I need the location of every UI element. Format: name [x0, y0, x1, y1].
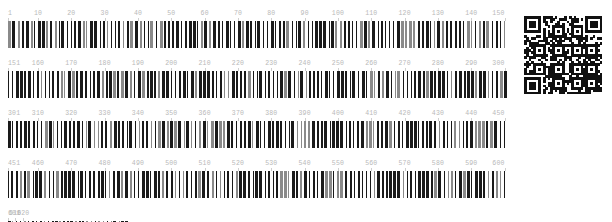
ruler-label: 330 — [99, 110, 111, 118]
barcode-bar — [185, 21, 188, 48]
barcode-strip[interactable] — [8, 21, 508, 48]
barcode-bar — [212, 171, 215, 198]
qr-module — [538, 68, 541, 71]
ruler-label: 130 — [432, 10, 444, 18]
barcode-bar — [20, 71, 23, 98]
ruler-label: 10 — [34, 10, 42, 18]
barcode-bar — [201, 21, 202, 48]
barcode-bar — [156, 21, 157, 48]
barcode-bar — [122, 121, 123, 148]
barcode-bar — [80, 71, 83, 98]
barcode-bar — [94, 21, 97, 48]
barcode-bar — [109, 171, 110, 198]
barcode-bar — [195, 171, 196, 198]
barcode-bar — [48, 221, 49, 222]
barcode-bar — [231, 121, 232, 148]
ruler-label: 20 — [67, 10, 75, 18]
barcode-bar — [463, 21, 464, 48]
barcode-row[interactable]: 601610620 — [8, 210, 508, 222]
barcode-bar — [366, 71, 367, 98]
barcode-bar — [121, 221, 124, 222]
barcode-bar — [8, 221, 11, 222]
barcode-bar — [313, 171, 316, 198]
barcode-bar — [32, 221, 35, 222]
qr-module — [524, 42, 527, 45]
barcode-row[interactable]: 1102030405060708090100110120130140150 — [8, 10, 508, 48]
ruler-label: 510 — [199, 160, 211, 168]
position-ruler: 601610620 — [8, 210, 128, 221]
barcode-bar — [418, 121, 419, 148]
barcode-bar — [98, 171, 99, 198]
barcode-bar — [183, 171, 184, 198]
barcode-bar — [236, 171, 237, 198]
barcode-bar — [337, 71, 340, 98]
barcode-bar — [397, 171, 400, 198]
qr-code[interactable] — [522, 14, 604, 94]
ruler-label: 210 — [199, 60, 211, 68]
barcode-bar — [362, 71, 365, 98]
barcode-bar — [243, 171, 246, 198]
barcode-bar — [111, 21, 112, 48]
barcode-bar — [125, 71, 128, 98]
barcode-bar — [198, 171, 201, 198]
barcode-bar — [33, 71, 34, 98]
barcode-bar — [93, 71, 96, 98]
barcode-bar — [434, 21, 435, 48]
ruler-label: 110 — [365, 10, 377, 18]
barcode-bar — [91, 221, 92, 222]
barcode-bar — [218, 21, 221, 48]
barcode-bar — [366, 121, 367, 148]
barcode-bar — [348, 21, 351, 48]
barcode-strip[interactable] — [8, 71, 508, 98]
barcode-bar — [459, 171, 462, 198]
barcode-strip[interactable] — [8, 221, 128, 222]
barcode-bar — [82, 121, 83, 148]
barcode-bar — [268, 121, 271, 148]
barcode-bar — [306, 71, 307, 98]
barcode-bar — [439, 121, 440, 148]
qr-module — [555, 16, 558, 19]
barcode-bar — [125, 171, 128, 198]
barcode-bar — [321, 171, 324, 198]
barcode-bar — [16, 221, 17, 222]
barcode-bar — [257, 71, 258, 98]
barcode-bar — [171, 71, 172, 98]
qr-module — [562, 92, 565, 95]
barcode-bar — [55, 221, 58, 222]
barcode-bar — [46, 21, 47, 48]
barcode-bar — [26, 21, 29, 48]
barcode-bar — [265, 71, 266, 98]
barcode-bar — [496, 71, 499, 98]
barcode-bar — [292, 21, 293, 48]
barcode-bar — [184, 121, 185, 148]
barcode-bar — [479, 71, 482, 98]
barcode-bar — [109, 71, 112, 98]
barcode-bar — [407, 171, 408, 198]
barcode-bar — [228, 71, 229, 98]
barcode-bar — [259, 171, 262, 198]
barcode-bar — [483, 21, 484, 48]
barcode-bar — [257, 21, 260, 48]
ruler-label: 160 — [32, 60, 44, 68]
ruler-label: 80 — [267, 10, 275, 18]
barcode-bar — [24, 121, 27, 148]
barcode-strip[interactable] — [8, 171, 508, 198]
barcode-bar — [183, 71, 186, 98]
qr-module — [600, 37, 603, 40]
barcode-bar — [313, 71, 316, 98]
qr-module — [581, 18, 584, 21]
barcode-bar — [135, 121, 136, 148]
barcode-bar — [321, 121, 322, 148]
barcode-bar — [312, 21, 313, 48]
barcode-bar — [236, 121, 237, 148]
barcode-bar — [64, 121, 67, 148]
barcode-row[interactable]: 1511601701801902002102202302402502602702… — [8, 60, 508, 98]
barcode-strip[interactable] — [8, 121, 508, 148]
barcode-bar — [298, 71, 299, 98]
barcode-bar — [393, 21, 394, 48]
ruler-label: 560 — [365, 160, 377, 168]
barcode-row[interactable]: 4514604704804905005105205305405505605705… — [8, 160, 508, 198]
ruler-label: 451 — [8, 160, 20, 168]
barcode-bar — [284, 171, 287, 198]
barcode-row[interactable]: 3013103203303403503603703803904004104204… — [8, 110, 508, 148]
